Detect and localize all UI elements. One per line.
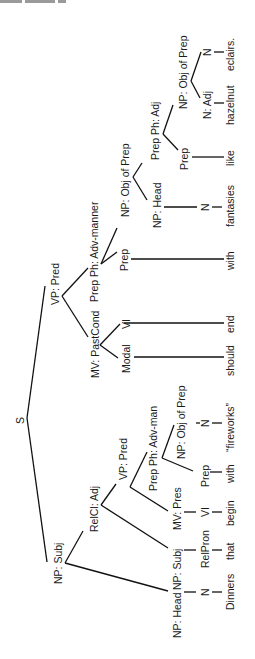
node-s: S: [14, 417, 26, 424]
word-begin: begin: [224, 500, 236, 526]
word-that: that: [224, 542, 236, 560]
node-vi: VI: [199, 507, 211, 517]
word-fireworks: “fireworks”: [224, 402, 236, 452]
node-n: N: [201, 48, 213, 56]
node-prep-ph-adj: Prep Ph: Adj: [149, 102, 161, 160]
node-modal: Modal: [120, 344, 132, 373]
node-prep: Prep: [178, 148, 190, 170]
node-prep: Prep: [199, 465, 211, 487]
node-np-obj-of-prep: NP: Obj of Prep: [177, 35, 189, 109]
node-n: N: [199, 203, 211, 211]
word-dinners: Dinners: [224, 574, 236, 610]
node-np-head: NP: Head: [151, 182, 163, 228]
node-prep: Prep: [118, 249, 130, 271]
syntax-tree-diagram: S NP: Subj NP: Head N RelCl: Adj NP: Sub…: [0, 0, 255, 659]
word-with: with: [224, 464, 236, 484]
node-relcl-adj: RelCl: Adj: [88, 486, 100, 532]
node-n: N: [199, 419, 211, 427]
node-np-subj-relative: NP: Subj: [171, 549, 183, 590]
node-vi: VI: [120, 319, 132, 329]
word-with: with: [224, 251, 236, 271]
word-fantasies: fantasies: [224, 185, 236, 227]
node-relpron: RelPron: [199, 530, 211, 568]
node-np-subj: NP: Subj: [52, 543, 64, 584]
word-end: end: [224, 315, 236, 333]
word-hazelnut: hazelnut: [224, 85, 236, 125]
node-n-adj: N: Adj: [201, 91, 213, 119]
node-mv-pres: MV: Pres: [171, 487, 183, 530]
node-np-obj-of-prep: NP: Obj of Prep: [119, 143, 131, 217]
word-eclairs: eclairs.: [224, 38, 236, 71]
sentence-words: Dinners that begin with “fireworks” shou…: [224, 38, 236, 610]
node-prep-ph-adv-man: Prep Ph: Adv-man: [147, 406, 159, 491]
node-n: N: [199, 588, 211, 596]
node-np-head: NP: Head: [171, 592, 183, 638]
tree-node-labels: S NP: Subj NP: Head N RelCl: Adj NP: Sub…: [14, 35, 213, 638]
node-vp-pred: VP: Pred: [49, 263, 61, 305]
node-mv-pastcond: MV: PastCond: [89, 311, 101, 378]
word-like: like: [224, 150, 236, 166]
word-should: should: [224, 345, 236, 376]
node-vp-pred-relative: VP: Pred: [117, 438, 129, 480]
node-np-obj-of-prep: NP: Obj of Prep: [175, 385, 187, 459]
node-prep-ph-adv-manner: Prep Ph: Adv-manner: [88, 201, 100, 302]
